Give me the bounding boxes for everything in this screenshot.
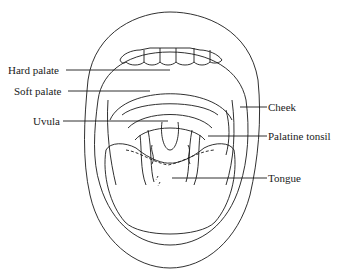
label-cheek: Cheek: [268, 101, 296, 113]
label-soft-palate: Soft palate: [14, 85, 61, 97]
inner-lip-outline: [95, 52, 249, 245]
label-palatine-tonsil: Palatine tonsil: [268, 130, 331, 142]
outer-lip-outline: [85, 12, 260, 268]
upper-teeth: [120, 48, 222, 65]
label-uvula: Uvula: [33, 115, 60, 127]
label-hard-palate: Hard palate: [8, 64, 59, 76]
uvula-shape: [161, 122, 178, 150]
label-tongue: Tongue: [268, 172, 301, 184]
tongue-shape: [105, 144, 235, 234]
